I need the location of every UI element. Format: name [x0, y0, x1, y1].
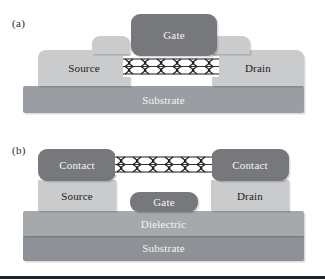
source-label-a: Source: [68, 62, 100, 74]
drain-label-b: Drain: [237, 190, 263, 202]
contact-left-label-b: Contact: [59, 159, 95, 171]
drain-shoulder-a: [212, 36, 250, 54]
gate-label-a: Gate: [163, 29, 185, 41]
dielectric-layer-b: Dielectric: [23, 211, 304, 236]
panel-b-bottom-gated-fet: (b) Substrate Dielectric Source Drain Co…: [0, 135, 325, 279]
contact-right-b: Contact: [211, 149, 289, 181]
panel-b-label: (b): [12, 144, 26, 156]
dielectric-label-b: Dielectric: [141, 218, 186, 230]
source-label-b: Source: [61, 190, 93, 202]
contact-right-label-b: Contact: [232, 159, 268, 171]
carbon-nanotube-channel-b: [115, 154, 212, 175]
drain-label-a: Drain: [245, 62, 271, 74]
substrate-label-b: Substrate: [142, 242, 185, 254]
source-electrode-b: Source: [38, 180, 116, 211]
gate-electrode-a: Gate: [131, 14, 217, 56]
contact-left-b: Contact: [38, 149, 116, 181]
substrate-layer-a: Substrate: [23, 86, 304, 113]
substrate-label-a: Substrate: [142, 94, 185, 106]
gate-electrode-b: Gate: [130, 192, 198, 212]
source-shoulder-a: [92, 36, 130, 54]
carbon-nanotube-channel-a: [123, 56, 219, 77]
panel-a-label: (a): [12, 17, 25, 29]
drain-electrode-b: Drain: [211, 180, 289, 211]
panel-a-top-gated-fet: (a) Substrate Source Drain: [0, 0, 325, 135]
source-electrode-a: Source: [38, 50, 130, 86]
drain-electrode-a: Drain: [212, 50, 304, 86]
substrate-layer-b: Substrate: [23, 235, 304, 261]
gate-label-b: Gate: [153, 196, 175, 208]
